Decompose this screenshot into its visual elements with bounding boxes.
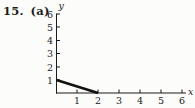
plot-area: 6 5 4 3 2 1 1 2 3 4 5 6 y x	[0, 0, 195, 108]
x-tick-label-2: 2	[95, 95, 101, 106]
y-tick-label-4: 4	[47, 35, 53, 46]
figure-container: 15.(a) 6 5 4 3 2 1	[0, 0, 195, 108]
y-ticks	[57, 14, 61, 80]
y-tick-label-2: 2	[47, 62, 53, 73]
x-tick-label-4: 4	[137, 95, 143, 106]
y-tick-label-6: 6	[47, 9, 53, 20]
x-tick-label-3: 3	[116, 95, 122, 106]
y-tick-label-3: 3	[47, 48, 53, 59]
x-tick-label-1: 1	[74, 95, 80, 106]
x-axis-label: x	[188, 86, 194, 97]
y-tick-label-5: 5	[47, 22, 53, 33]
x-tick-label-5: 5	[158, 95, 164, 106]
y-tick-label-1: 1	[47, 75, 53, 86]
y-axis-label: y	[58, 0, 65, 11]
x-tick-label-6: 6	[179, 95, 185, 106]
